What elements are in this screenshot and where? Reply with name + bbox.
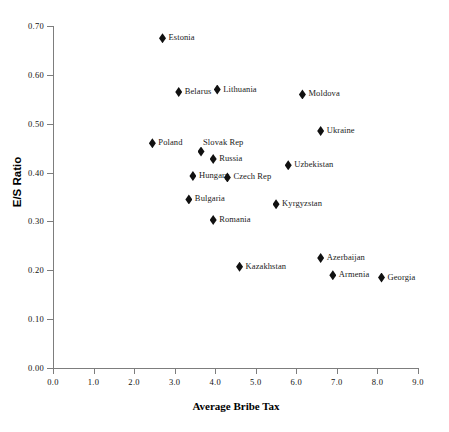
x-tick-label: 2.0 xyxy=(114,377,154,387)
x-tick-mark xyxy=(94,369,95,374)
y-tick-label: 0.40 xyxy=(2,168,44,178)
data-point-label: Belarus xyxy=(185,86,212,96)
data-point-label: Czech Rep xyxy=(233,171,271,181)
diamond-marker-icon xyxy=(329,270,336,280)
diamond-marker-icon xyxy=(378,273,385,283)
x-axis-line xyxy=(53,368,419,369)
x-tick-label: 5.0 xyxy=(236,377,276,387)
diamond-marker-icon xyxy=(149,138,156,148)
y-tick-label: 0.30 xyxy=(2,216,44,226)
data-point-label: Ukraine xyxy=(327,125,355,135)
data-point-label: Romania xyxy=(219,214,250,224)
scatter-chart: 0.000.100.200.300.400.500.600.70 0.01.02… xyxy=(0,0,449,432)
x-tick-label: 7.0 xyxy=(317,377,357,387)
y-tick-label: 0.60 xyxy=(2,70,44,80)
data-point-label: Estonia xyxy=(169,32,195,42)
y-tick-label: 0.50 xyxy=(2,119,44,129)
x-tick-mark xyxy=(418,369,419,374)
x-tick-label: 4.0 xyxy=(195,377,235,387)
data-point-label: Bulgaria xyxy=(195,193,225,203)
x-tick-mark xyxy=(175,369,176,374)
x-tick-label: 1.0 xyxy=(74,377,114,387)
data-point-label: Kyrgyzstan xyxy=(282,198,322,208)
diamond-marker-icon xyxy=(317,253,324,263)
data-point-label: Poland xyxy=(158,137,182,147)
y-tick-label: 0.20 xyxy=(2,265,44,275)
x-axis-title: Average Bribe Tax xyxy=(53,400,419,412)
diamond-marker-icon xyxy=(285,160,292,170)
x-tick-label: 3.0 xyxy=(155,377,195,387)
y-tick-label: 0.10 xyxy=(2,314,44,324)
x-tick-mark xyxy=(215,369,216,374)
data-point-label: Armenia xyxy=(339,269,369,279)
x-tick-mark xyxy=(53,369,54,374)
x-tick-mark xyxy=(337,369,338,374)
data-point-label: Lithuania xyxy=(223,84,256,94)
y-axis-title: E/S Ratio xyxy=(11,127,23,237)
diamond-marker-icon xyxy=(189,171,196,181)
plot-area: EstoniaBelarusLithuaniaMoldovaUkrainePol… xyxy=(53,26,418,368)
diamond-marker-icon xyxy=(299,89,306,99)
x-tick-label: 9.0 xyxy=(398,377,438,387)
x-tick-mark xyxy=(377,369,378,374)
data-point-label: Georgia xyxy=(388,272,416,282)
diamond-marker-icon xyxy=(210,215,217,225)
x-tick-label: 8.0 xyxy=(357,377,397,387)
x-tick-mark xyxy=(296,369,297,374)
diamond-marker-icon xyxy=(236,262,243,272)
diamond-marker-icon xyxy=(273,199,280,209)
data-point-label: Moldova xyxy=(308,88,339,98)
data-point-label: Uzbekistan xyxy=(294,159,333,169)
diamond-marker-icon xyxy=(210,154,217,164)
diamond-marker-icon xyxy=(214,85,221,95)
diamond-marker-icon xyxy=(175,87,182,97)
x-tick-label: 6.0 xyxy=(276,377,316,387)
x-tick-label: 0.0 xyxy=(33,377,73,387)
y-tick-label: 0.00 xyxy=(2,363,44,373)
diamond-marker-icon xyxy=(159,33,166,43)
data-point-label: Kazakhstan xyxy=(246,261,287,271)
data-point-label: Azerbaijan xyxy=(327,252,365,262)
diamond-marker-icon xyxy=(198,147,205,157)
data-point-label: Russia xyxy=(219,153,242,163)
diamond-marker-icon xyxy=(185,194,192,204)
x-tick-mark xyxy=(256,369,257,374)
diamond-marker-icon xyxy=(317,126,324,136)
data-point-label: Slovak Rep xyxy=(203,137,243,147)
y-tick-label: 0.70 xyxy=(2,21,44,31)
x-tick-mark xyxy=(134,369,135,374)
